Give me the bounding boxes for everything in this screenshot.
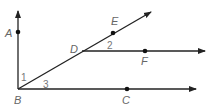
angle-1-label: 1	[21, 72, 27, 83]
point-f-dot	[143, 49, 148, 54]
label-d: D	[70, 43, 78, 55]
label-f: F	[141, 55, 149, 67]
label-a: A	[4, 27, 12, 39]
point-e-dot	[111, 31, 116, 36]
label-e: E	[111, 15, 119, 27]
diagram-canvas: A B C D E F 1 2 3	[0, 0, 211, 110]
point-a-dot	[16, 30, 21, 35]
point-c-dot	[125, 87, 130, 92]
angle-3-label: 3	[43, 79, 49, 90]
angle-2-label: 2	[107, 40, 113, 51]
geometry-diagram: A B C D E F 1 2 3	[0, 0, 211, 110]
label-b: B	[14, 94, 21, 106]
label-c: C	[122, 94, 130, 106]
